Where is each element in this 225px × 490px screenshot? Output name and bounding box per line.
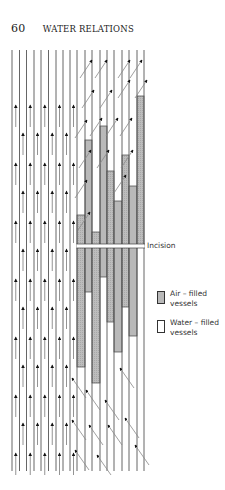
vessel-diagram (0, 0, 225, 490)
water-swatch-icon (157, 320, 165, 333)
air-column (137, 96, 144, 246)
legend-label: Water – filled (170, 318, 219, 328)
air-column (114, 201, 122, 352)
air-column (92, 232, 100, 383)
air-column (100, 126, 107, 277)
legend-label: Air – filled (170, 289, 207, 299)
legend: Air – filled vessels Water – filled vess… (157, 289, 219, 347)
air-column (85, 140, 92, 292)
air-column (129, 186, 137, 336)
air-filled-columns (77, 96, 144, 383)
legend-label: vessels (170, 299, 207, 309)
incision-label: Incision (147, 241, 176, 250)
air-column (122, 155, 129, 307)
air-column (77, 215, 85, 367)
legend-item-air: Air – filled vessels (157, 289, 219, 309)
incision-band (77, 244, 146, 248)
legend-label: vessels (170, 328, 219, 338)
legend-item-water: Water – filled vessels (157, 318, 219, 338)
air-swatch-icon (157, 291, 165, 304)
